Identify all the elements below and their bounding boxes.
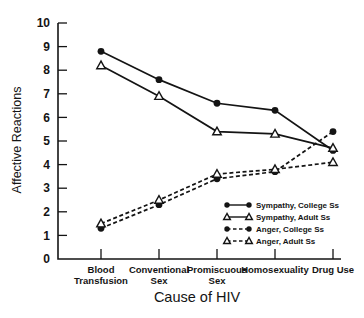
- x-tick-label: Drug Use: [312, 264, 354, 275]
- filled-circle-marker: [224, 226, 229, 231]
- y-axis-title: Affective Reactions: [10, 87, 24, 194]
- series-line: [101, 65, 333, 148]
- filled-circle-marker: [272, 107, 279, 114]
- open-triangle-marker: [329, 158, 338, 166]
- y-tick-label: 4: [43, 158, 50, 172]
- filled-circle-marker: [214, 100, 221, 107]
- filled-circle-marker: [224, 202, 229, 207]
- y-tick-label: 3: [43, 181, 50, 195]
- y-tick-label: 10: [37, 16, 51, 30]
- filled-circle-marker: [246, 202, 251, 207]
- y-tick-label: 6: [43, 111, 50, 125]
- y-tick-label: 8: [43, 63, 50, 77]
- open-triangle-marker: [97, 61, 106, 69]
- x-tick-label: Homosexuality: [241, 264, 309, 275]
- chart-canvas: 012345678910BloodTransfusionConventional…: [0, 0, 364, 318]
- filled-circle-marker: [156, 76, 163, 83]
- legend-label: Anger, Adult Ss: [256, 237, 316, 246]
- x-tick-label: PromiscuousSex: [187, 264, 247, 286]
- open-triangle-marker: [224, 237, 231, 243]
- open-triangle-marker: [155, 196, 164, 204]
- legend-label: Sympathy, College Ss: [256, 201, 340, 210]
- filled-circle-marker: [330, 128, 337, 135]
- x-tick-label: ConventionalSex: [129, 264, 189, 286]
- y-tick-label: 5: [43, 134, 50, 148]
- open-triangle-marker: [224, 213, 231, 219]
- legend-label: Anger, College Ss: [256, 225, 325, 234]
- y-tick-label: 1: [43, 229, 50, 243]
- y-tick-label: 7: [43, 87, 50, 101]
- open-triangle-marker: [246, 213, 253, 219]
- y-tick-label: 2: [43, 205, 50, 219]
- filled-circle-marker: [98, 48, 105, 55]
- x-tick-label: BloodTransfusion: [74, 264, 128, 286]
- y-tick-label: 0: [43, 252, 50, 266]
- open-triangle-marker: [246, 237, 253, 243]
- legend-label: Sympathy, Adult Ss: [256, 213, 331, 222]
- y-tick-label: 9: [43, 40, 50, 54]
- open-triangle-marker: [155, 92, 164, 100]
- x-axis-title: Cause of HIV: [154, 289, 240, 305]
- filled-circle-marker: [246, 226, 251, 231]
- affective-reactions-figure: 012345678910BloodTransfusionConventional…: [0, 0, 364, 318]
